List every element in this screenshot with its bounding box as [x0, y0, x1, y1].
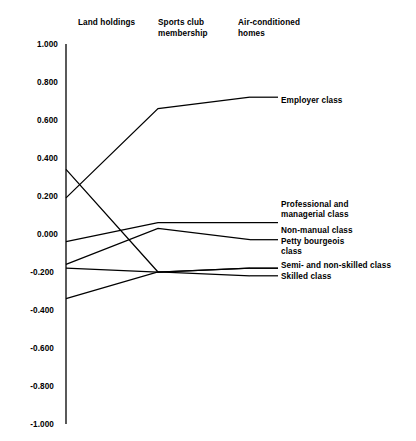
parallel-coordinates-chart: Land holdings Sports club membership Air…: [0, 0, 416, 441]
series-label-professional-managerial-class: Professional and managerial class: [281, 200, 349, 221]
series-label-semi-and-non-skilled-class: Semi- and non-skilled class: [281, 261, 391, 271]
series-lines-group: [66, 97, 278, 298]
series-label-skilled-class: Skilled class: [281, 272, 331, 282]
series-line-petty-bourgeois-class: [66, 169, 250, 272]
series-label-employer-class: Employer class: [281, 96, 342, 106]
plot-area: [0, 0, 416, 441]
series-label-non-manual-class: Non-manual class: [281, 226, 353, 236]
series-line-non-manual-class: [66, 228, 250, 264]
series-line-skilled-class: [66, 272, 250, 299]
series-line-employer-class: [66, 97, 250, 198]
series-label-petty-bourgeois-class: Petty bourgeois class: [281, 237, 344, 258]
series-line-professional-and-managerial-class: [66, 223, 250, 242]
